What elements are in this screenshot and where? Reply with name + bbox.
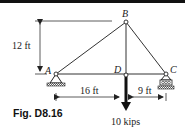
joint-D [124,73,128,77]
figure-caption: Fig. D8.16 [13,107,63,119]
truss-members [56,22,166,75]
member-BC [126,22,166,74]
joint-C [164,72,168,76]
truss-diagram: B A D C 12 ft 16 ft 9 ft Fig. D8.16 10 k… [0,0,185,132]
dimension-label-9ft: 9 ft [138,85,152,96]
joint-A [54,72,58,76]
node-label-A: A [44,65,52,76]
joint-B [124,20,128,24]
dimension-label-16ft: 16 ft [80,85,99,96]
dimension-label-height: 12 ft [12,40,31,51]
load-label: 10 kips [111,116,140,127]
load-arrow [121,77,131,111]
node-label-B: B [122,8,128,19]
joints [54,20,168,77]
node-label-C: C [170,64,177,75]
node-label-D: D [113,64,122,75]
